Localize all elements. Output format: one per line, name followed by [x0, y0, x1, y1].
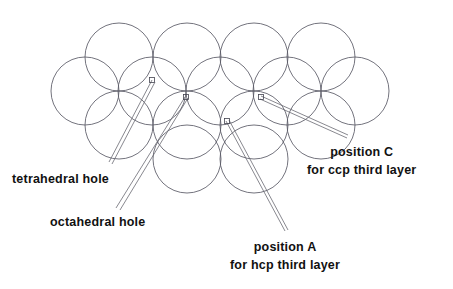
sphere-circle — [85, 23, 153, 91]
sphere-circle — [220, 23, 288, 91]
label-position-a: position A for hcp third layer — [230, 238, 340, 274]
label-position-a-title: position A — [230, 238, 340, 256]
leader-line-position-a — [226, 121, 285, 231]
label-octahedral-hole: octahedral hole — [50, 213, 145, 231]
label-tetrahedral-hole-text: tetrahedral hole — [12, 170, 109, 188]
label-tetrahedral-hole: tetrahedral hole — [12, 170, 109, 188]
label-position-c-title: position C — [307, 143, 416, 161]
sphere-circle — [321, 57, 389, 125]
sphere-circle — [186, 57, 254, 125]
sphere-circle — [85, 91, 153, 159]
label-position-a-subtitle: for hcp third layer — [230, 256, 340, 274]
leader-line-position-c — [261, 96, 348, 135]
sphere-circle — [153, 23, 221, 91]
sphere-circle — [287, 23, 355, 91]
close-packed-layers-figure: tetrahedral hole octahedral hole positio… — [0, 0, 453, 289]
label-position-c: position C for ccp third layer — [307, 143, 416, 179]
leader-line-position-c — [260, 99, 347, 138]
label-octahedral-hole-text: octahedral hole — [50, 213, 145, 231]
sphere-circle — [118, 57, 186, 125]
sphere-circle — [51, 57, 119, 125]
leader-line-octahedral — [120, 98, 188, 210]
leader-line-tetrahedral — [109, 80, 152, 162]
sphere-circle — [253, 57, 321, 125]
label-position-c-subtitle: for ccp third layer — [307, 161, 416, 179]
